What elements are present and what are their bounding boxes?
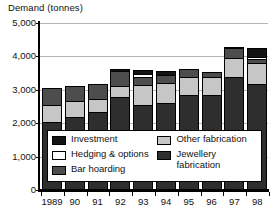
- bar-segment[interactable]: [247, 63, 267, 85]
- y-axis-tick-label: 2,000: [12, 118, 36, 128]
- bar-segment[interactable]: [156, 83, 176, 104]
- legend-entry[interactable]: Bar hoarding: [52, 164, 157, 179]
- bar-segment[interactable]: [110, 86, 130, 98]
- bar-segment[interactable]: [224, 47, 244, 49]
- bar-segment[interactable]: [247, 48, 267, 58]
- legend-swatch-icon: [52, 166, 66, 175]
- bar-segment[interactable]: [156, 75, 176, 84]
- legend-swatch-icon: [52, 136, 66, 145]
- bar-segment[interactable]: [110, 69, 130, 72]
- bar-segment[interactable]: [42, 105, 62, 123]
- bar-segment[interactable]: [133, 77, 153, 86]
- bar-segment[interactable]: [179, 77, 199, 96]
- x-axis-tick: [178, 192, 179, 196]
- legend-column-left: InvestmentHedging & optionsBar hoarding: [52, 134, 157, 179]
- bar-segment[interactable]: [42, 88, 62, 106]
- legend-entry[interactable]: Hedging & options: [52, 149, 157, 164]
- legend-label: Hedging & options: [71, 149, 149, 160]
- x-axis-tick: [246, 192, 247, 196]
- y-axis-tick-label: 1,000: [12, 152, 36, 162]
- x-axis-tick: [269, 192, 270, 196]
- y-axis-tick-label: 5,000: [12, 18, 36, 28]
- legend-swatch-icon: [157, 136, 171, 145]
- chart-legend: InvestmentHedging & optionsBar hoarding …: [47, 130, 262, 182]
- x-axis-tick-label: 98: [241, 197, 272, 207]
- bar-segment[interactable]: [65, 101, 85, 118]
- x-axis-tick: [64, 192, 65, 196]
- x-axis-tick: [109, 192, 110, 196]
- chart-screenshot: Demand (tonnes) 01,0002,0003,0004,0005,0…: [0, 0, 272, 212]
- bar-segment[interactable]: [224, 58, 244, 79]
- x-axis-tick: [155, 192, 156, 196]
- bar-segment[interactable]: [65, 86, 85, 101]
- bar-segment[interactable]: [133, 70, 153, 75]
- bar-segment[interactable]: [202, 72, 222, 79]
- legend-swatch-icon: [157, 151, 171, 160]
- legend-label: Bar hoarding: [71, 164, 125, 175]
- bar-segment[interactable]: [224, 48, 244, 59]
- legend-label: Other fabrication: [176, 134, 246, 145]
- y-axis-tick-label: 4,000: [12, 51, 36, 61]
- x-axis-tick: [87, 192, 88, 196]
- legend-column-right: Other fabricationJewellery fabrication: [157, 134, 257, 179]
- bar-segment[interactable]: [202, 77, 222, 95]
- legend-entry[interactable]: Investment: [52, 134, 157, 149]
- legend-entry[interactable]: Jewellery fabrication: [157, 149, 257, 164]
- bar-segment[interactable]: [88, 84, 108, 99]
- bar-segment[interactable]: [88, 99, 108, 113]
- bar-segment[interactable]: [110, 71, 130, 87]
- legend-label: Investment: [71, 134, 117, 145]
- bar-segment[interactable]: [179, 69, 199, 79]
- bar-segment[interactable]: [133, 85, 153, 105]
- y-axis-tick-label: 3,000: [12, 85, 36, 95]
- legend-swatch-icon: [52, 151, 66, 160]
- legend-label: Jewellery fabrication: [176, 149, 220, 170]
- x-axis-tick: [223, 192, 224, 196]
- x-axis-tick: [132, 192, 133, 196]
- y-axis-labels: 01,0002,0003,0004,0005,000: [0, 0, 36, 212]
- legend-entry[interactable]: Other fabrication: [157, 134, 257, 149]
- x-axis-tick: [201, 192, 202, 196]
- bar-segment[interactable]: [156, 71, 176, 75]
